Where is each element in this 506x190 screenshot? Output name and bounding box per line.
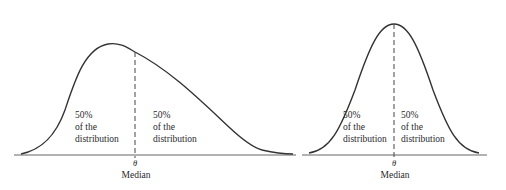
- left-panel-right-distribution: distribution: [153, 134, 197, 144]
- right-panel-right-distribution: distribution: [401, 134, 445, 144]
- right-panel-left-distribution: distribution: [343, 134, 387, 144]
- right-theta-symbol: θ: [392, 158, 396, 168]
- left-panel-left-ofthe: of the: [75, 122, 97, 132]
- symmetric-distribution-panel: 50% of the distribution 50% of the distr…: [302, 24, 487, 180]
- left-median-label: Median: [121, 170, 150, 180]
- skewed-tail-extension: [262, 150, 296, 155]
- median-diagram: 50% of the distribution 50% of the distr…: [0, 0, 506, 190]
- skewed-distribution-panel: 50% of the distribution 50% of the distr…: [14, 44, 262, 180]
- left-panel-left-pct: 50%: [75, 110, 93, 120]
- skewed-density-curve: [21, 44, 262, 154]
- right-median-label: Median: [380, 170, 409, 180]
- left-theta-symbol: θ: [133, 158, 137, 168]
- left-panel-right-pct: 50%: [153, 110, 171, 120]
- right-panel-right-ofthe: of the: [401, 122, 423, 132]
- left-panel-right-ofthe: of the: [153, 122, 175, 132]
- right-panel-right-pct: 50%: [401, 110, 419, 120]
- right-panel-left-pct: 50%: [343, 110, 361, 120]
- left-panel-left-distribution: distribution: [75, 134, 119, 144]
- right-panel-left-ofthe: of the: [343, 122, 365, 132]
